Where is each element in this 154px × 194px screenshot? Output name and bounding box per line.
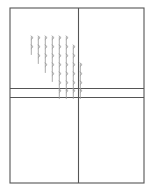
frame-border-rect — [10, 8, 144, 183]
outer-frame — [10, 8, 144, 183]
figure-canvas — [0, 0, 154, 194]
schematic-figure — [0, 0, 154, 194]
